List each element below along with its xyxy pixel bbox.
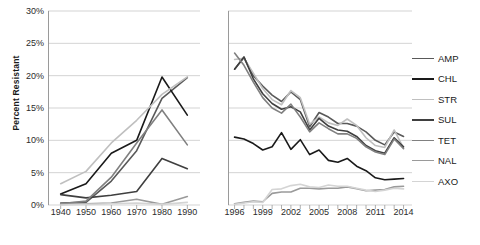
series-line-sul [235, 57, 404, 153]
legend: AMPCHLSTRSULTETNALAXO [412, 48, 478, 192]
legend-label: CHL [438, 74, 457, 84]
legend-swatch-str [412, 99, 434, 100]
x-tick-label: 1970 [127, 207, 147, 217]
series-line-str [235, 58, 404, 148]
y-tick-label: 20% [10, 71, 44, 81]
legend-item-str[interactable]: STR [412, 89, 478, 110]
legend-item-tet[interactable]: TET [412, 130, 478, 151]
x-tick-label: 1960 [101, 207, 121, 217]
series-line-nal [235, 186, 404, 203]
x-axis-historical: 194019501960197019801990 [48, 207, 200, 227]
panel-historical [48, 0, 200, 215]
legend-swatch-chl [412, 78, 434, 80]
legend-swatch-sul [412, 119, 434, 121]
legend-swatch-amp [412, 58, 434, 59]
x-tick-label: 2002 [281, 207, 301, 217]
legend-swatch-axo [412, 181, 434, 182]
x-tick-label: 1999 [253, 207, 273, 217]
legend-swatch-tet [412, 140, 434, 141]
plot-area [48, 0, 200, 215]
plot-area [228, 0, 412, 215]
series-line-tet [235, 53, 404, 155]
legend-item-sul[interactable]: SUL [412, 110, 478, 131]
legend-label: AXO [438, 177, 458, 187]
legend-label: TET [438, 136, 456, 146]
chart-figure: Percent Resistant 0%5%10%15%20%25%30% 19… [0, 0, 480, 245]
legend-item-nal[interactable]: NAL [412, 151, 478, 172]
x-tick-label: 2011 [366, 207, 385, 217]
legend-label: SUL [438, 115, 456, 125]
y-tick-label: 0% [10, 200, 44, 210]
legend-label: STR [438, 95, 457, 105]
y-tick-label: 15% [10, 103, 44, 113]
series-line-amp [235, 58, 404, 145]
x-tick-label: 1950 [76, 207, 96, 217]
legend-item-axo[interactable]: AXO [412, 171, 478, 192]
x-tick-label: 2008 [337, 207, 357, 217]
series-line-sul [61, 158, 188, 197]
x-tick-label: 1980 [152, 207, 172, 217]
legend-item-amp[interactable]: AMP [412, 48, 478, 69]
x-tick-label: 2005 [309, 207, 329, 217]
y-tick-label: 30% [10, 6, 44, 16]
x-tick-label: 2014 [394, 207, 414, 217]
series-line-chl [61, 77, 188, 194]
legend-label: AMP [438, 54, 459, 64]
y-tick-label: 5% [10, 168, 44, 178]
x-tick-label: 1990 [177, 207, 197, 217]
y-axis-tick-labels: 0%5%10%15%20%25%30% [4, 0, 44, 245]
series-line-tet [61, 110, 188, 204]
x-tick-label: 1996 [225, 207, 245, 217]
panel-recent [228, 0, 412, 215]
x-axis-recent: 1996199920022005200820112014 [228, 207, 412, 227]
legend-item-chl[interactable]: CHL [412, 69, 478, 90]
legend-swatch-nal [412, 160, 434, 161]
y-tick-label: 10% [10, 135, 44, 145]
legend-label: NAL [438, 156, 456, 166]
y-tick-label: 25% [10, 38, 44, 48]
x-tick-label: 1940 [51, 207, 71, 217]
